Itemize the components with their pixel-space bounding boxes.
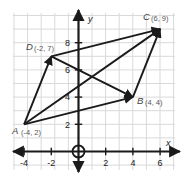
y-tick-label-2: 2 <box>65 120 70 130</box>
point-coords-d: (-2, 7) <box>34 44 55 53</box>
point-coords-a: (-4, 2) <box>21 128 42 137</box>
point-coords-b: (4, 4) <box>145 98 163 107</box>
y-tick-label-4: 4 <box>65 92 70 102</box>
y-tick-label-6: 6 <box>65 65 70 75</box>
point-label-a: A <box>11 125 18 136</box>
point-label-d: D <box>26 41 33 52</box>
point-label-c: C <box>143 11 150 22</box>
x-tick-label-2: 2 <box>103 158 108 168</box>
coordinate-plane-figure: -4 -2 2 4 6 2 4 6 8 y x A (-4, 2) B (4, … <box>0 0 188 178</box>
point-coords-c: (6, 9) <box>151 14 169 23</box>
y-axis-label: y <box>87 14 93 24</box>
x-tick-label-4: 4 <box>130 158 135 168</box>
point-label-b: B <box>137 95 144 106</box>
y-tick-label-8: 8 <box>65 38 70 48</box>
x-tick-label-neg4: -4 <box>20 158 28 168</box>
x-tick-label-6: 6 <box>158 158 163 168</box>
x-tick-label-neg2: -2 <box>47 158 55 168</box>
x-axis-label: x <box>165 138 171 148</box>
